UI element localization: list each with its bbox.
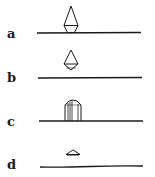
diagram-figure	[0, 0, 155, 177]
diamond-crystal-icon	[64, 50, 78, 70]
diamond-crystal-icon	[64, 6, 78, 33]
surface-line-b	[38, 78, 142, 79]
panel-b	[38, 50, 142, 78]
flat-cap-icon	[66, 150, 80, 155]
surface-line-a	[37, 33, 141, 34]
panel-d	[40, 150, 143, 167]
panel-c	[39, 100, 143, 121]
panel-a	[37, 6, 141, 33]
column-crystal-icon	[65, 100, 81, 121]
surface-line-d	[40, 166, 143, 167]
